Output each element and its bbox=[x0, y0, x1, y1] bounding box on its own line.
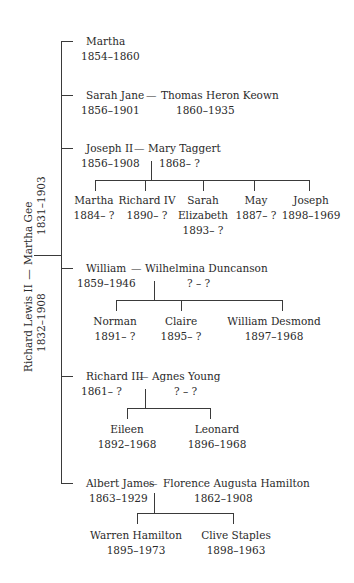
spouse-wilhelmina-name: Wilhelmina Duncanson bbox=[145, 262, 268, 275]
marriage-dash: — bbox=[138, 370, 149, 383]
root-marriage-dash: — bbox=[22, 269, 34, 280]
grandchild-dates: 1898–1963 bbox=[207, 544, 266, 557]
root-spouse-dates: 1831–1903 bbox=[35, 176, 48, 235]
albert-descent bbox=[154, 493, 155, 514]
grandchild-dates: 1898–1969 bbox=[282, 209, 341, 222]
branch-joseph-ii bbox=[61, 148, 73, 149]
drop bbox=[137, 513, 138, 524]
richard-iii-children-bar bbox=[127, 408, 211, 409]
child-martha-name: Martha bbox=[86, 35, 125, 48]
marriage-dash: — bbox=[147, 477, 158, 490]
marriage-dash: — bbox=[146, 89, 157, 102]
grandchild-dates: 1890– ? bbox=[127, 209, 168, 222]
main-spine bbox=[61, 41, 62, 484]
marriage-dash: — bbox=[131, 262, 142, 275]
grandchild-dates: 1887– ? bbox=[236, 209, 277, 222]
spouse-agnes-dates: ? – ? bbox=[174, 385, 197, 398]
child-sarah-jane-dates: 1856–1901 bbox=[81, 104, 140, 117]
spouse-thomas-name: Thomas Heron Keown bbox=[161, 89, 279, 102]
branch-martha bbox=[61, 41, 73, 42]
drop bbox=[254, 180, 255, 191]
grandchild-dates: 1892–1968 bbox=[98, 438, 157, 451]
grandchild-name: May bbox=[245, 194, 268, 207]
branch-sarah-jane bbox=[61, 95, 73, 96]
root-couple: Richard Lewis II — Martha Gee 1832–1908 … bbox=[22, 202, 48, 372]
drop bbox=[181, 300, 182, 311]
child-joseph-ii-dates: 1856–1908 bbox=[81, 157, 140, 170]
child-joseph-ii-name: Joseph II bbox=[86, 142, 133, 155]
albert-children-bar bbox=[137, 513, 234, 514]
root-person-name: Richard Lewis II bbox=[22, 284, 34, 372]
drop bbox=[282, 300, 283, 311]
joseph-descent bbox=[151, 161, 152, 181]
spouse-mary-dates: 1868– ? bbox=[159, 157, 200, 170]
child-martha-dates: 1854–1860 bbox=[81, 50, 140, 63]
child-richard-iii-dates: 1861– ? bbox=[81, 385, 122, 398]
spouse-florence-name: Florence Augusta Hamilton bbox=[163, 477, 310, 490]
grandchild-dates: 1895– ? bbox=[161, 330, 202, 343]
grandchild-name: Joseph bbox=[293, 194, 329, 207]
grandchild-dates: 1897–1968 bbox=[245, 330, 304, 343]
grandchild-dates: 1893– ? bbox=[183, 224, 224, 237]
drop bbox=[145, 180, 146, 191]
drop bbox=[210, 408, 211, 419]
grandchild-name: Eileen bbox=[110, 423, 144, 436]
child-william-dates: 1859–1946 bbox=[77, 277, 136, 290]
drop bbox=[233, 513, 234, 524]
branch-albert-james bbox=[61, 483, 73, 484]
grandchild-name: William Desmond bbox=[227, 315, 320, 328]
root-person-dates: 1832–1908 bbox=[35, 293, 48, 352]
grandchild-dates: 1884– ? bbox=[74, 209, 115, 222]
spouse-thomas-dates: 1860–1935 bbox=[176, 104, 235, 117]
child-sarah-jane-name: Sarah Jane bbox=[86, 89, 144, 102]
child-albert-james-dates: 1863–1929 bbox=[89, 492, 148, 505]
spouse-florence-dates: 1862–1908 bbox=[194, 492, 253, 505]
branch-richard-iii bbox=[61, 376, 73, 377]
drop bbox=[203, 180, 204, 191]
drop bbox=[116, 300, 117, 311]
richard-iii-descent bbox=[145, 389, 146, 409]
william-descent bbox=[154, 281, 155, 301]
drop bbox=[127, 408, 128, 419]
grandchild-name: Richard IV bbox=[119, 194, 176, 207]
marriage-dash: — bbox=[134, 142, 145, 155]
grandchild-name: Norman bbox=[93, 315, 137, 328]
root-spouse-name: Martha Gee bbox=[22, 202, 34, 265]
grandchild-dates: 1891– ? bbox=[95, 330, 136, 343]
grandchild-name: Clive Staples bbox=[201, 529, 271, 542]
william-children-bar bbox=[116, 300, 283, 301]
spouse-wilhelmina-dates: ? – ? bbox=[187, 277, 210, 290]
grandchild-name: Sarah bbox=[187, 194, 219, 207]
grandchild-name: Leonard bbox=[195, 423, 239, 436]
drop bbox=[309, 180, 310, 191]
drop bbox=[95, 180, 96, 191]
spouse-mary-name: Mary Taggert bbox=[148, 142, 221, 155]
child-william-name: William bbox=[86, 262, 126, 275]
grandchild-dates: 1896–1968 bbox=[188, 438, 247, 451]
child-richard-iii-name: Richard III bbox=[86, 370, 144, 383]
child-albert-james-name: Albert James bbox=[86, 477, 154, 490]
grandchild-name: Martha bbox=[74, 194, 113, 207]
grandchild-name: Warren Hamilton bbox=[90, 529, 182, 542]
branch-william bbox=[61, 268, 73, 269]
grandchild-dates: 1895–1973 bbox=[107, 544, 166, 557]
grandchild-name-2: Elizabeth bbox=[178, 209, 228, 222]
grandchild-name: Claire bbox=[165, 315, 197, 328]
spouse-agnes-name: Agnes Young bbox=[152, 370, 221, 383]
